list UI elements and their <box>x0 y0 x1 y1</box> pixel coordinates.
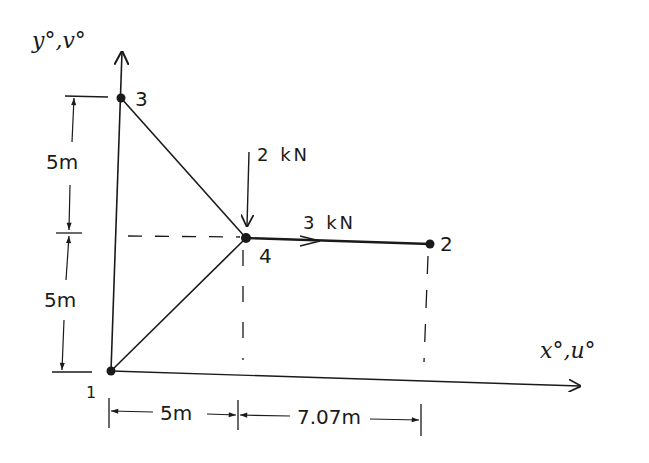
node-label-3: 3 <box>135 89 148 109</box>
dim-label-left: 5m <box>160 403 192 423</box>
node-1 <box>107 367 116 376</box>
x-axis <box>111 371 580 386</box>
x-axis-label: x°,u° <box>540 340 596 362</box>
dim-h707-a <box>240 415 290 416</box>
dim-label-lower: 5m <box>44 290 76 310</box>
node-label-2: 2 <box>440 234 453 254</box>
dim-lower-a <box>66 236 69 280</box>
guide-vertical-2 <box>424 256 428 362</box>
member-4-2 <box>246 238 430 244</box>
dim-upper-a <box>72 98 74 142</box>
dim-tick-top <box>65 96 108 97</box>
member-1-4 <box>111 238 246 371</box>
node-label-1: 1 <box>86 385 96 401</box>
load-label-2kn: 2 kN <box>257 146 310 164</box>
node-4 <box>241 233 251 243</box>
dim-label-right: 7.07m <box>297 407 361 427</box>
dim-h5-b <box>207 414 236 415</box>
load-label-3kn: 3 kN <box>303 214 356 232</box>
member-3-4 <box>121 98 246 238</box>
dim-lower-b <box>62 320 64 370</box>
dim-label-upper: 5m <box>46 152 78 172</box>
dim-upper-b <box>69 185 70 230</box>
node-3 <box>117 94 126 103</box>
y-axis-label: y°,v° <box>32 30 86 52</box>
load-2kn-arrow <box>247 152 249 226</box>
node-label-4: 4 <box>259 246 272 266</box>
dim-h707-b <box>370 419 419 420</box>
guide-horizontal-4 <box>128 236 240 237</box>
truss-diagram: y°,v° x°,u° 1 2 3 4 2 kN 3 kN 5m 5m 5m 7… <box>0 0 649 463</box>
dim-h5-a <box>111 411 153 412</box>
node-2 <box>426 240 435 249</box>
